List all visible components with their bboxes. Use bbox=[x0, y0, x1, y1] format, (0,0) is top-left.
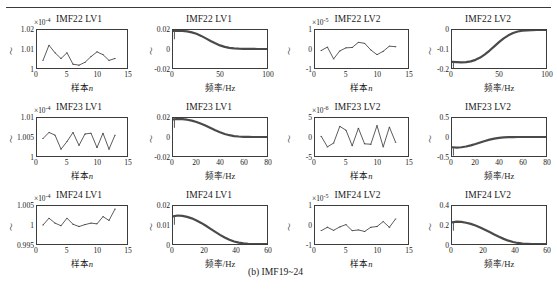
subplot-title: IMF23 LV2 bbox=[278, 102, 419, 112]
plot-axes-box bbox=[314, 117, 409, 157]
x-tick-label: 0 bbox=[34, 158, 38, 167]
plot-series-imf22-lv2-time bbox=[315, 30, 408, 68]
x-tick-label: 50 bbox=[495, 70, 503, 79]
x-tick-label: 100 bbox=[262, 70, 273, 79]
plot-axes-box bbox=[314, 29, 409, 69]
x-tick-label: 10 bbox=[94, 70, 102, 79]
x-axis-label: 样本n bbox=[36, 81, 128, 93]
subplot-title: IMF23 LV2 bbox=[419, 102, 557, 112]
y-axis-label: ～ bbox=[282, 47, 294, 55]
subplot-title: IMF22 LV2 bbox=[278, 14, 419, 24]
axis-exponent-base: ×10 bbox=[34, 106, 46, 115]
x-tick-label: 80 bbox=[543, 158, 551, 167]
plot-axes-box bbox=[451, 117, 547, 157]
y-tick-label: 1 bbox=[308, 25, 312, 34]
subplot-imf24-lv2-freq: IMF24 LV200.20.40204060频率/Hz～ bbox=[419, 190, 557, 278]
subplot-title: IMF22 LV1 bbox=[0, 14, 140, 24]
x-axis-label-text: 样本n bbox=[350, 171, 372, 181]
x-tick-label: 40 bbox=[495, 158, 503, 167]
x-axis-label: 频率/Hz bbox=[451, 169, 547, 181]
x-tick-label: 20 bbox=[200, 246, 208, 255]
x-tick-label: 0 bbox=[312, 70, 316, 79]
y-tick-label: 0 bbox=[308, 221, 312, 230]
x-tick-label: 5 bbox=[344, 70, 348, 79]
subplot-imf23-lv1-freq: IMF23 LV1-0.0200.02020406080频率/Hz～ bbox=[140, 102, 278, 190]
y-tick-label: 0.4 bbox=[440, 201, 450, 210]
x-tick-label: 10 bbox=[374, 70, 382, 79]
y-tick-label: 0.995 bbox=[17, 241, 34, 250]
y-tick-label: 0 bbox=[166, 133, 170, 142]
y-tick-label: 1.01 bbox=[21, 45, 34, 54]
plot-series-imf23-lv2-freq bbox=[452, 118, 546, 156]
axis-exponent-label: ×10-5 bbox=[312, 17, 329, 27]
plot-axes-box bbox=[36, 29, 128, 69]
x-tick-label: 0 bbox=[170, 70, 174, 79]
subplot-imf22-lv2-time: IMF22 LV2×10-5-101051015样本n～ bbox=[278, 14, 419, 102]
x-tick-label: 10 bbox=[94, 158, 102, 167]
x-axis-label-text: 样本n bbox=[71, 171, 93, 181]
subplot-imf23-lv2-freq: IMF23 LV2-0.500.5020406080频率/Hz～ bbox=[419, 102, 557, 190]
subplot-imf22-lv1-freq: IMF22 LV1-0.0200.02050100频率/Hz～ bbox=[140, 14, 278, 102]
x-axis-label: 样本n bbox=[314, 81, 409, 93]
axis-exponent-label: ×10-4 bbox=[34, 105, 51, 115]
subplot-title: IMF23 LV1 bbox=[140, 102, 278, 112]
y-tick-label: 1 bbox=[308, 201, 312, 210]
subplot-title: IMF24 LV1 bbox=[0, 190, 140, 200]
figure-caption-text: (b) IMF19~24 bbox=[248, 266, 303, 277]
x-tick-label: 15 bbox=[405, 70, 413, 79]
x-axis-label: 频率/Hz bbox=[172, 169, 268, 181]
y-tick-label: -0.02 bbox=[154, 65, 170, 74]
x-tick-label: 20 bbox=[192, 158, 200, 167]
axis-exponent-label: ×10-5 bbox=[312, 193, 329, 203]
subplot-title: IMF22 LV2 bbox=[419, 14, 557, 24]
plot-axes-box bbox=[36, 205, 128, 245]
subplot-imf24-lv1-time: IMF24 LV1×10-40.99511.005051015样本n～ bbox=[0, 190, 140, 278]
x-tick-label: 0 bbox=[312, 158, 316, 167]
x-tick-label: 0 bbox=[449, 158, 453, 167]
y-tick-label: 1.005 bbox=[17, 201, 34, 210]
plot-series-imf23-lv1-time bbox=[37, 118, 127, 156]
plot-axes-box bbox=[172, 205, 268, 245]
y-tick-label: 0 bbox=[445, 133, 449, 142]
subplot-imf24-lv1-freq: IMF24 LV100.010.020204060频率/Hz～ bbox=[140, 190, 278, 278]
axis-exponent-base: ×10 bbox=[312, 18, 324, 27]
y-axis-label: ～ bbox=[423, 223, 435, 231]
plot-axes-box bbox=[36, 117, 128, 157]
axis-exponent-base: ×10 bbox=[312, 194, 324, 203]
x-axis-label-text: 样本n bbox=[71, 83, 93, 93]
y-tick-label: 1.02 bbox=[21, 25, 34, 34]
x-tick-label: 60 bbox=[240, 158, 248, 167]
x-tick-label: 60 bbox=[543, 246, 551, 255]
plot-series-imf24-lv1-freq bbox=[173, 206, 267, 244]
x-tick-label: 15 bbox=[124, 70, 132, 79]
axis-exponent-power: -6 bbox=[324, 105, 329, 111]
axis-exponent-power: -4 bbox=[46, 17, 51, 23]
plot-series-imf24-lv2-freq bbox=[452, 206, 546, 244]
x-tick-label: 0 bbox=[312, 246, 316, 255]
subplot-imf23-lv1-time: IMF23 LV1×10-411.0051.01051015样本n～ bbox=[0, 102, 140, 190]
y-axis-label: ～ bbox=[282, 223, 294, 231]
subplot-title: IMF24 LV2 bbox=[419, 190, 557, 200]
x-tick-label: 10 bbox=[374, 158, 382, 167]
x-tick-label: 15 bbox=[405, 246, 413, 255]
plot-series-imf23-lv1-freq bbox=[173, 118, 267, 156]
x-tick-label: 60 bbox=[519, 158, 527, 167]
axis-exponent-label: ×10-4 bbox=[34, 17, 51, 27]
y-tick-label: 1.01 bbox=[21, 113, 34, 122]
axis-exponent-label: ×10-4 bbox=[34, 193, 51, 203]
x-tick-label: 0 bbox=[170, 158, 174, 167]
y-axis-label: ～ bbox=[4, 135, 16, 143]
x-tick-label: 80 bbox=[264, 158, 272, 167]
y-axis-label: ～ bbox=[144, 135, 156, 143]
x-tick-label: 60 bbox=[264, 246, 272, 255]
y-axis-label: ～ bbox=[144, 223, 156, 231]
x-tick-label: 10 bbox=[94, 246, 102, 255]
y-axis-label: ～ bbox=[423, 135, 435, 143]
x-tick-label: 40 bbox=[216, 158, 224, 167]
subplot-grid: IMF22 LV1×10-411.011.02051015样本n～IMF22 L… bbox=[0, 14, 557, 266]
plot-series-imf22-lv2-freq bbox=[452, 30, 546, 68]
plot-axes-box bbox=[451, 29, 547, 69]
plot-series-imf24-lv2-time bbox=[315, 206, 408, 244]
plot-series-imf22-lv1-freq bbox=[173, 30, 267, 68]
y-axis-label: ～ bbox=[144, 47, 156, 55]
